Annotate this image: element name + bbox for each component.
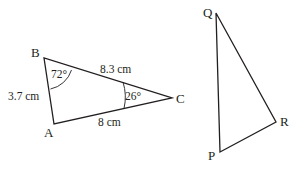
side-bc-length: 8.3 cm	[100, 63, 131, 75]
angle-b-value: 72°	[51, 68, 68, 80]
diagram-canvas: B A C 3.7 cm 8.3 cm 8 cm 72° 26° Q P R	[0, 0, 304, 169]
side-ab-length: 3.7 cm	[8, 90, 39, 102]
triangle-pqr-outline	[216, 13, 276, 152]
vertex-label-c: C	[176, 91, 185, 106]
vertex-label-p: P	[208, 148, 215, 163]
angle-c-value: 26°	[125, 90, 142, 102]
vertex-label-q: Q	[203, 5, 213, 20]
triangle-abc: B A C 3.7 cm 8.3 cm 8 cm 72° 26°	[8, 45, 185, 140]
triangle-pqr: Q P R	[203, 5, 289, 163]
side-ac-length: 8 cm	[98, 116, 121, 128]
vertex-label-a: A	[44, 125, 54, 140]
vertex-label-r: R	[280, 114, 289, 129]
vertex-label-b: B	[31, 45, 40, 60]
